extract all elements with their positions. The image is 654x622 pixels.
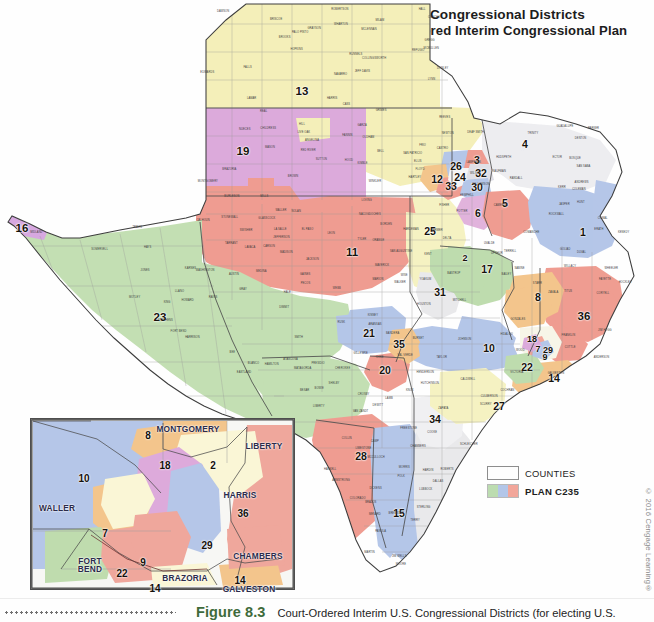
caption-dot-leader <box>4 611 176 614</box>
houston-inset-map <box>30 418 295 590</box>
figure-canvas: U.S. Congressional Districts Court–Order… <box>0 0 654 622</box>
houston-inset-svg <box>31 419 294 589</box>
legend-item-counties: COUNTIES <box>487 466 579 480</box>
copyright-notice: © 2016 Cengage Learning® <box>644 487 653 593</box>
caption-divider <box>0 598 654 599</box>
legend-label-counties: COUNTIES <box>525 468 575 479</box>
legend-item-plan: PLAN C235 <box>487 484 579 498</box>
plan-swatch-icon <box>487 484 519 498</box>
legend-label-plan: PLAN C235 <box>525 486 579 497</box>
figure-caption-text: Court-Ordered Interim U.S. Congressional… <box>278 607 616 619</box>
counties-swatch-icon <box>487 466 519 480</box>
figure-caption: Figure 8.3 Court-Ordered Interim U.S. Co… <box>196 604 654 622</box>
figure-number: Figure 8.3 <box>196 604 266 620</box>
map-legend: COUNTIES PLAN C235 <box>487 466 579 502</box>
